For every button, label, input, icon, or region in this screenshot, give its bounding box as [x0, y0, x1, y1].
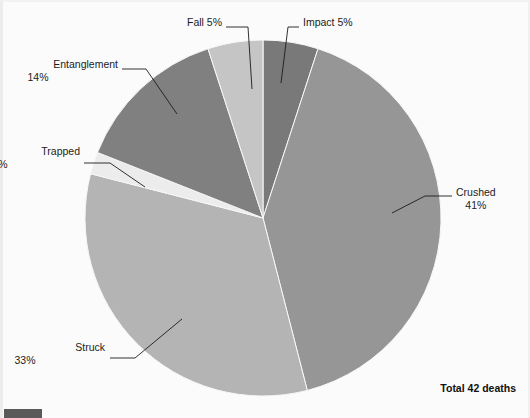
page-corner-marker	[4, 409, 42, 418]
slice-label-value: 33%	[0, 354, 105, 367]
slice-label-trapped: Trapped2%	[0, 145, 80, 171]
slice-label-value: 2%	[0, 158, 80, 171]
slice-label-name: Impact 5%	[303, 16, 353, 29]
slice-label-name: Struck	[0, 341, 105, 354]
total-deaths-label: Total 42 deaths	[440, 382, 516, 394]
slice-label-value: 41%	[456, 199, 496, 212]
chart-page: Impact 5%Crushed41%Struck33%Trapped2%Ent…	[0, 0, 530, 418]
slice-label-value: 14%	[0, 71, 118, 84]
slice-label-name: Entanglement	[0, 58, 118, 71]
slice-label-impact: Impact 5%	[303, 16, 353, 29]
slice-label-entanglement: Entanglement14%	[0, 58, 118, 84]
slice-label-struck: Struck33%	[0, 341, 105, 367]
slice-label-name: Crushed	[456, 186, 496, 199]
pie-slice-group	[85, 40, 441, 396]
slice-label-crushed: Crushed41%	[456, 186, 496, 212]
slice-label-fall: Fall 5%	[62, 16, 222, 29]
slice-label-name: Fall 5%	[62, 16, 222, 29]
slice-label-name: Trapped	[0, 145, 80, 158]
